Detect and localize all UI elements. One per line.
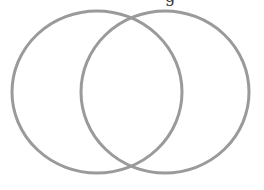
venn-svg xyxy=(0,0,264,190)
venn-diagram: g xyxy=(0,0,264,190)
right-set-circle xyxy=(81,11,249,173)
left-set-circle xyxy=(12,11,182,173)
clipped-heading-fragment: g xyxy=(165,0,175,5)
